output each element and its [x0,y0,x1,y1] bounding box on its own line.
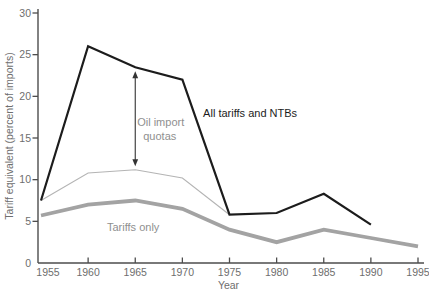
x-tick-label: 1975 [218,266,242,278]
y-tick-label: 10 [19,173,31,185]
series-line-tariffs-only [41,201,418,247]
y-axis-title: Tariff equivalent (percent of imports) [3,52,15,219]
x-tick-label: 1960 [76,266,100,278]
x-tick-label: 1990 [359,266,383,278]
series-line-all-tariffs-and-ntbs [41,46,371,224]
oil-import-quotas-label-line-2: quotas [143,130,177,142]
x-tick-label: 1965 [124,266,148,278]
oil-quotas-arrow-head-up [132,71,138,78]
tariff-line-chart: 0510152025301955196019651970197519801985… [0,0,429,296]
oil-import-quotas-label-line-1: Oil import [137,116,184,128]
x-tick-label: 1985 [312,266,336,278]
x-axis-title: Year [218,279,240,291]
all-tariffs-and-ntbs-label: All tariffs and NTBs [203,107,297,119]
y-tick-label: 20 [19,90,31,102]
x-tick-label: 1980 [265,266,289,278]
tariff-equivalent-figure: 0510152025301955196019651970197519801985… [0,0,429,296]
y-tick-label: 25 [19,48,31,60]
x-tick-label: 1995 [406,266,429,278]
y-tick-label: 0 [25,257,31,269]
y-tick-label: 5 [25,215,31,227]
tariffs-only-label: Tariffs only [107,221,160,233]
y-tick-label: 30 [19,7,31,19]
oil-quotas-arrow-head-down [132,159,138,166]
y-tick-label: 15 [19,132,31,144]
x-tick-label: 1955 [36,266,60,278]
x-tick-label: 1970 [171,266,195,278]
